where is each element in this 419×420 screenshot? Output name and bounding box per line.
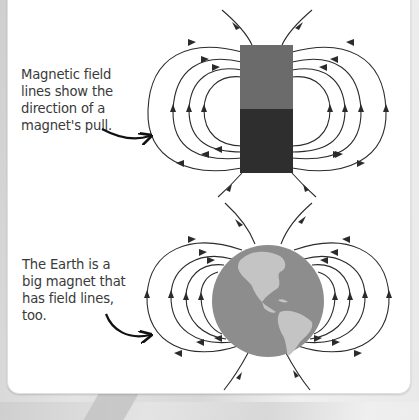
pointer-arrow-icon [102,129,150,138]
bar-magnet-icon [240,45,293,173]
pointer-arrow-icon [106,314,150,336]
earth-globe-icon [212,245,324,357]
